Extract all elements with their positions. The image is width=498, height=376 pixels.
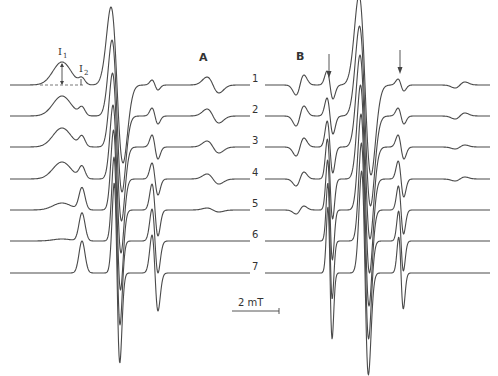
arrow-down-icon	[327, 54, 332, 78]
i2-subscript: 2	[84, 69, 88, 77]
scale-bar: 2 mT	[232, 297, 279, 314]
trace-label-7: 7	[252, 261, 258, 272]
scale-bar-label: 2 mT	[238, 297, 264, 308]
arrow-down-icon	[398, 50, 403, 74]
epr-spectra-figure: A B I 1 I 2 1234567 2 mT	[0, 0, 498, 376]
trace-number-labels: 1234567	[252, 73, 258, 272]
trace-label-6: 6	[252, 229, 258, 240]
i1-subscript: 1	[63, 52, 67, 60]
trace-label-5: 5	[252, 198, 258, 209]
trace-label-2: 2	[252, 104, 258, 115]
spectrum-trace-4	[265, 85, 490, 273]
trace-label-1: 1	[252, 73, 258, 84]
spectrum-trace-3	[10, 73, 250, 221]
trace-label-4: 4	[252, 167, 258, 178]
spectrum-trace-7	[265, 171, 490, 375]
i2-label: I	[79, 63, 83, 74]
trace-label-3: 3	[252, 135, 258, 146]
i1-label: I	[58, 46, 62, 57]
panel-b-label: B	[296, 50, 304, 63]
panel-a-label: A	[199, 51, 208, 64]
spectrum-trace-6	[10, 157, 250, 325]
spectrum-trace-6	[265, 143, 490, 339]
panel-a-spectra	[10, 7, 250, 363]
